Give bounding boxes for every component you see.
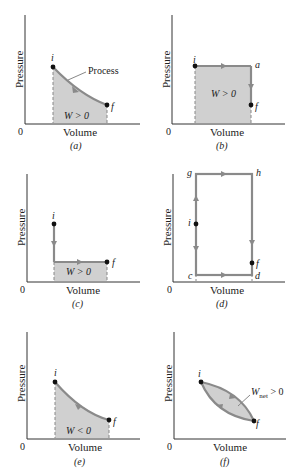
caption: (c) — [72, 298, 83, 309]
work-inequality: > 0 — [268, 386, 284, 397]
y-axis-label: Pressure — [161, 209, 173, 246]
work-subscript: net — [259, 392, 268, 400]
point-g-label: g — [187, 167, 192, 178]
y-axis-label: Pressure — [15, 209, 27, 246]
point-i-label: i — [51, 52, 54, 63]
point-i-label: i — [54, 367, 57, 378]
work-label: W > 0 — [64, 110, 89, 121]
panel-e: Pressure 0 Volume (e) i f W < 0 — [0, 320, 150, 474]
panel-d: Pressure 0 Volume (d) g h i f c d — [150, 160, 300, 318]
y-axis-label: Pressure — [13, 51, 25, 88]
x-axis-label: Volume — [66, 284, 100, 296]
y-axis-label: Pressure — [162, 365, 174, 402]
origin-label: 0 — [20, 441, 25, 452]
x-axis-label: Volume — [210, 284, 244, 296]
point-f-label: f — [113, 416, 116, 427]
caption: (f) — [220, 456, 229, 467]
x-axis-label: Volume — [213, 441, 247, 453]
y-axis-label: Pressure — [15, 365, 27, 402]
origin-label: 0 — [20, 284, 25, 295]
y-axis-label: Pressure — [160, 51, 172, 88]
origin-label: 0 — [167, 441, 172, 452]
caption: (e) — [74, 456, 85, 467]
point-i-label: i — [52, 210, 55, 221]
point-d-label: d — [255, 270, 260, 281]
point-f-label: f — [111, 101, 114, 112]
point-f-label: f — [256, 418, 259, 429]
origin-label: 0 — [167, 284, 172, 295]
work-label: W > 0 — [66, 266, 91, 277]
point-i-label: i — [193, 54, 196, 65]
point-c-label: c — [188, 270, 192, 281]
x-axis-label: Volume — [63, 126, 97, 138]
panel-f: Pressure 0 Volume (f) i f Wnet > 0 — [150, 320, 300, 474]
caption: (b) — [216, 140, 228, 151]
x-axis-label: Volume — [68, 441, 102, 453]
work-label: W < 0 — [66, 425, 91, 436]
origin-label: 0 — [18, 126, 23, 137]
caption: (a) — [70, 140, 82, 151]
origin-label: 0 — [166, 126, 171, 137]
work-label: W > 0 — [211, 88, 236, 99]
panel-b: Pressure 0 Volume (b) i a f W > 0 — [150, 0, 300, 158]
x-axis-label: Volume — [210, 126, 244, 138]
panel-c: Pressure 0 Volume (c) i f W > 0 — [0, 160, 150, 318]
point-a-label: a — [255, 59, 260, 70]
caption: (d) — [216, 298, 228, 309]
process-label: Process — [88, 65, 119, 76]
point-f-label: f — [256, 258, 259, 269]
point-i-label: i — [188, 217, 191, 228]
point-i-label: i — [198, 368, 201, 379]
point-f-label: f — [112, 257, 115, 268]
point-h-label: h — [256, 167, 261, 178]
point-f-label: f — [255, 101, 258, 112]
panel-a: Pressure 0 Volume (a) i f W > 0 Process — [0, 0, 150, 158]
work-net-label: Wnet > 0 — [251, 386, 284, 400]
